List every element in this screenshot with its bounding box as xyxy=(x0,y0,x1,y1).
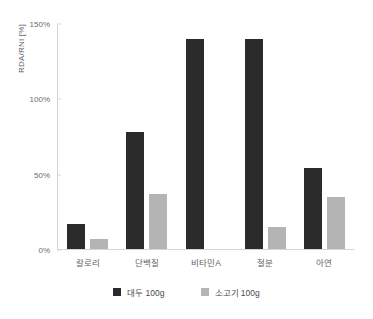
bar-group xyxy=(117,24,176,249)
bar-chart: RDA/RNI [%] 0%50%100%150% 칼로리단백질비타민A철분아연… xyxy=(0,0,373,319)
legend-label: 대두 100g xyxy=(127,286,164,298)
x-axis-label: 아연 xyxy=(295,256,354,268)
y-tick-mark xyxy=(57,250,61,251)
x-axis-label: 비타민A xyxy=(176,256,235,268)
bar-group xyxy=(295,24,354,249)
bar-group xyxy=(58,24,117,249)
chart-legend: 대두 100g소고기 100g xyxy=(0,286,373,298)
plot-area: 0%50%100%150% xyxy=(57,24,354,250)
y-tick-label: 50% xyxy=(34,170,57,179)
bar-group xyxy=(176,24,235,249)
x-axis-label: 철분 xyxy=(236,256,295,268)
bars-layer xyxy=(58,24,354,249)
x-axis-label: 단백질 xyxy=(117,256,176,268)
bar[interactable] xyxy=(268,227,286,250)
legend-item[interactable]: 대두 100g xyxy=(113,286,164,298)
x-axis-line xyxy=(57,249,354,250)
bar[interactable] xyxy=(67,224,85,250)
bar[interactable] xyxy=(186,39,204,249)
y-tick-label: 150% xyxy=(30,20,57,29)
y-tick-label: 0% xyxy=(38,246,57,255)
bar[interactable] xyxy=(149,194,167,250)
legend-item[interactable]: 소고기 100g xyxy=(201,286,260,298)
bar[interactable] xyxy=(245,39,263,249)
legend-label: 소고기 100g xyxy=(215,286,260,298)
y-axis-title: RDA/RNI [%] xyxy=(17,0,26,104)
bar-group xyxy=(236,24,295,249)
x-axis-labels: 칼로리단백질비타민A철분아연 xyxy=(58,256,354,268)
x-axis-label: 칼로리 xyxy=(58,256,117,268)
bar[interactable] xyxy=(90,239,108,250)
y-tick-label: 100% xyxy=(30,95,57,104)
bar[interactable] xyxy=(126,132,144,249)
legend-swatch-icon xyxy=(113,288,121,296)
legend-swatch-icon xyxy=(201,288,209,296)
bar[interactable] xyxy=(304,168,322,249)
bar[interactable] xyxy=(327,197,345,250)
